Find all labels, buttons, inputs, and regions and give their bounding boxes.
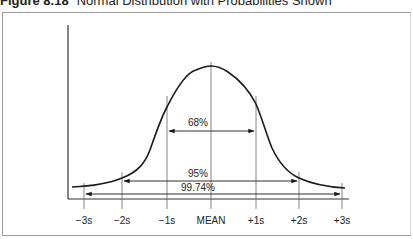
tick-label-minus-1s: −1s: [159, 215, 175, 226]
normal-curve: [72, 66, 345, 188]
tick-label-plus-3s: +3s: [334, 215, 350, 226]
tick-label-mean: MEAN: [197, 215, 226, 226]
label-99-74-percent: 99.74%: [181, 182, 215, 193]
normal-distribution-chart: 68% 95% 99.74% −3s −2s −1s MEAN +1s +2s …: [0, 0, 413, 239]
tick-label-minus-3s: −3s: [76, 215, 92, 226]
tick-label-plus-2s: +2s: [291, 215, 307, 226]
tick-label-minus-2s: −2s: [114, 215, 130, 226]
label-68-percent: 68%: [188, 117, 208, 128]
label-95-percent: 95%: [188, 168, 208, 179]
tick-label-plus-1s: +1s: [248, 215, 264, 226]
